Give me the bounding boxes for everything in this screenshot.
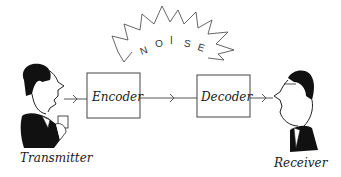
noise-letter-i: I [170, 35, 173, 46]
receiver-label: Receiver [274, 156, 327, 170]
noise-letter-o: O [154, 37, 164, 49]
arrow-decoder-receiver [250, 94, 273, 102]
encoder-label: Encoder [92, 90, 143, 104]
communication-diagram: N O I S E Encoder Decoder Transmitter Re… [0, 0, 341, 177]
noise-letter-s: S [183, 38, 191, 50]
arrow-encoder-decoder [140, 94, 197, 102]
transmitter-figure [21, 64, 68, 148]
noise-starburst [112, 6, 234, 60]
arrow-transmitter-encoder [64, 95, 87, 103]
receiver-figure [274, 71, 318, 152]
transmitter-label: Transmitter [20, 151, 92, 165]
decoder-label: Decoder [201, 90, 252, 104]
